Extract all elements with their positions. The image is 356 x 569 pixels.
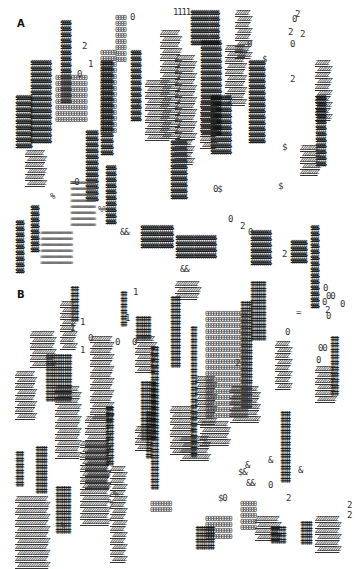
panel-b-character-map: ‡‡‡‡ ‡‡‡‡ ‡‡‡‡ ‡‡‡‡ ‡‡‡‡ ‡‡‡‡ZZZZZZ ZZZZ…	[0, 276, 356, 548]
glyph-region-zero: 000000 000000 000000 000000 000000	[240, 501, 256, 531]
glyph-single: 2	[347, 501, 351, 510]
glyph-region-dollar: $$$$ $$$$ $$$$ $$$$ $$$$ $$$$ $$$$ $$$$	[30, 205, 38, 253]
glyph-single: 0$	[213, 185, 221, 194]
glyph-single: %%	[98, 205, 106, 214]
glyph-single: &&	[246, 479, 254, 488]
glyph-single: 1	[88, 60, 92, 69]
glyph-single: 0	[228, 215, 232, 224]
panel-b: B ‡‡‡‡ ‡‡‡‡ ‡‡‡‡ ‡‡‡‡ ‡‡‡‡ ‡‡‡‡ZZZZZZ ZZ…	[0, 276, 356, 548]
glyph-single: 00	[318, 344, 326, 353]
glyph-region-hatch: ZZZZZZZZ ZZZZZZZZ ZZZZZZZZ ZZZZZZZZ ZZZZ…	[15, 371, 35, 419]
glyph-single: 1	[80, 346, 84, 355]
glyph-single: 2	[240, 222, 244, 231]
glyph-single: 1111	[173, 8, 190, 17]
glyph-single: %	[60, 521, 64, 530]
glyph-single: 2	[290, 75, 294, 84]
glyph-single: %	[50, 192, 54, 201]
glyph-single: 2	[300, 30, 304, 39]
glyph-single: $0	[218, 494, 226, 503]
glyph-single: 0	[88, 334, 92, 343]
glyph-region-dash: ================== ================== ==…	[40, 230, 71, 266]
glyph-region-dagger: ‡‡‡‡‡ ‡‡‡‡‡ ‡‡‡‡‡ ‡‡‡‡‡ ‡‡‡‡‡ ‡‡‡‡‡ ‡‡‡‡…	[170, 296, 179, 368]
glyph-single: $&	[238, 468, 246, 477]
glyph-single: &	[268, 456, 272, 465]
glyph-region-dagger: ‡‡‡‡‡‡‡‡ ‡‡‡‡‡‡‡‡ ‡‡‡‡‡‡‡‡	[270, 526, 285, 544]
glyph-single: 2	[282, 250, 286, 259]
glyph-single: 0	[285, 328, 289, 337]
glyph-single: 0	[248, 228, 252, 237]
glyph-region-hatch: ZZZZZZZZ ZZZZZZZZ ZZZZZZZZ ZZZZZZZZ ZZZZ…	[175, 55, 195, 139]
glyph-region-dagger: ‡‡‡‡‡‡ ‡‡‡‡‡‡ ‡‡‡‡‡‡ ‡‡‡‡‡‡ ‡‡‡‡‡‡ ‡‡‡‡‡…	[35, 446, 46, 494]
glyph-region-hatch: ZZZZZZ ZZZZZZ ZZZZZZ ZZZZZZ ZZZZZZ ZZZZZ…	[200, 100, 216, 148]
glyph-region-hatch: ZZZZZZ ZZZZZZ ZZZZZZ ZZZZZZ ZZZZZZ ZZZZZ…	[275, 341, 291, 389]
glyph-region-hatch: ZZZZZZZZZZZZ ZZZZZZZZZZZZ ZZZZZZZZZZZZ Z…	[80, 441, 109, 525]
glyph-single: 1	[80, 318, 84, 327]
glyph-single: $	[278, 182, 282, 191]
glyph-single: 0	[290, 40, 294, 49]
glyph-region-dollar: $$$$$$$$ $$$$$$$$ $$$$$$$$ $$$$$$$$ $$$$…	[248, 60, 264, 144]
glyph-single: 0	[292, 15, 296, 24]
glyph-single: %	[113, 490, 117, 499]
glyph-region-dollar: $$$$$$$$$$$$$$$$$$$$ $$$$$$$$$$$$$$$$$$$…	[175, 235, 215, 259]
glyph-single: 0	[115, 338, 119, 347]
glyph-region-hatch: ZZZZZZ ZZZZZZ ZZZZZZ ZZZZZZ ZZZZZZ ZZZZZ…	[110, 466, 126, 562]
glyph-region-hatch: ZZZZZZZZ ZZZZZZZZ ZZZZZZZZ ZZZZZZZZ ZZZZ…	[25, 150, 45, 186]
glyph-single: =	[296, 308, 300, 317]
glyph-single: 0	[316, 356, 320, 365]
glyph-region-dollar: $$$$$$ $$$$$$ $$$$$$ $$$$$$ $$$$$$ $$$$$…	[100, 60, 112, 156]
glyph-region-hatch: ZZZZZZZZZZZZ ZZZZZZZZZZZZ ZZZZZZZZZZZZ Z…	[180, 436, 209, 460]
glyph-region-dollar: $$$$$$$$$$ $$$$$$$$$$ $$$$$$$$$$ $$$$$$$…	[30, 60, 50, 144]
glyph-region-dagger: ‡‡‡‡ ‡‡‡‡ ‡‡‡‡ ‡‡‡‡ ‡‡‡‡ ‡‡‡‡	[15, 451, 22, 487]
glyph-region-dollar: $$$$$ $$$$$ $$$$$ $$$$$ $$$$$ $$$$$ $$$$…	[105, 165, 115, 225]
glyph-single: $	[282, 143, 286, 152]
glyph-single: 0	[77, 70, 81, 79]
glyph-region-dollar: $$$$$ $$$$$ $$$$$ $$$$$ $$$$$ $$$$$ $$$$…	[130, 50, 140, 122]
glyph-single: 1	[125, 314, 129, 323]
glyph-region-hatch: ZZZZZZZZ ZZZZZZZZ ZZZZZZZZ ZZZZZZZZ ZZZZ…	[195, 376, 215, 424]
glyph-single: %	[108, 498, 112, 507]
glyph-region-dagger: ‡‡‡‡‡‡‡‡ ‡‡‡‡‡‡‡‡ ‡‡‡‡‡‡‡‡ ‡‡‡‡‡‡‡‡ ‡‡‡‡…	[250, 281, 265, 341]
glyph-region-dash: ============== ============== ==========…	[70, 180, 94, 228]
glyph-region-hatch: ZZZZZZZZ ZZZZZZZZ ZZZZZZZZ ZZZZZZZZ ZZZZ…	[315, 366, 335, 402]
glyph-region-dollar: $$$$$$$$$$$$$$$$ $$$$$$$$$$$$$$$$ $$$$$$…	[140, 225, 172, 249]
glyph-region-zero: 0000 0000 0000 0000 0000 0000 0000 0000	[115, 15, 125, 63]
glyph-region-zero: 000000000000 000000000000 000000000000 0…	[55, 75, 86, 123]
glyph-region-dollar: $$$$$$$$$$ $$$$$$$$$$ $$$$$$$$$$ $$$$$$$…	[250, 230, 270, 266]
glyph-single: 0	[326, 312, 330, 321]
glyph-region-hatch: ZZZZZZZ ZZZZZZZ ZZZZZZZ ZZZZZZZ	[175, 140, 193, 164]
glyph-single: =0	[70, 178, 78, 187]
glyph-region-dollar: $$$$$$$$ $$$$$$$$ $$$$$$$$ $$$$$$$$ $$$$…	[15, 95, 31, 149]
glyph-single: 0	[340, 300, 344, 309]
glyph-single: 2	[347, 511, 351, 520]
glyph-single: 2	[286, 494, 290, 503]
glyph-single: 0	[130, 13, 134, 22]
glyph-single: 2	[82, 42, 86, 51]
glyph-single: 2	[235, 359, 239, 368]
glyph-single: 2	[135, 100, 139, 109]
panel-a: A $$$$$ $$$$$ $$$$$ $$$$$ $$$$$ $$$$$ $$…	[0, 0, 356, 272]
glyph-single: &	[298, 466, 302, 475]
glyph-region-dagger: ‡‡‡ ‡‡‡ ‡‡‡ ‡‡‡ ‡‡‡ ‡‡‡ ‡‡‡ ‡‡‡	[145, 411, 150, 459]
glyph-region-dollar: $$$$ $$$$ $$$$ $$$$ $$$$ $$$$ $$$$ $$$$ …	[15, 220, 23, 274]
glyph-single: 1	[70, 324, 74, 333]
glyph-single: 00	[326, 292, 334, 301]
glyph-single: 0	[247, 40, 251, 49]
glyph-single: 1	[133, 288, 137, 297]
glyph-region-dollar: $$$$$$$$ $$$$$$$$ $$$$$$$$ $$$$$$$$	[290, 240, 306, 264]
glyph-region-dagger: ‡‡‡‡‡‡ ‡‡‡‡‡‡ ‡‡‡‡‡‡ ‡‡‡‡‡‡	[300, 521, 311, 545]
glyph-single: &&	[180, 265, 188, 274]
glyph-region-hatch: ZZZZZZZZZZZZ ZZZZZZZZZZZZ ZZZZZZZZZZZZ Z…	[230, 386, 259, 422]
glyph-region-hatch: ZZZZZZZZZZZZZZ ZZZZZZZZZZZZZZ ZZZZZZZZZZ…	[15, 496, 48, 568]
glyph-region-hatch: ZZZZZZZZZZ ZZZZZZZZZZ ZZZZZZZZZZ ZZZZZZZ…	[315, 516, 339, 552]
glyph-single: 2	[288, 28, 292, 37]
glyph-region-dagger: ‡‡‡‡‡‡‡‡‡‡ ‡‡‡‡‡‡‡‡‡‡ ‡‡‡‡‡‡‡‡‡‡ ‡‡‡‡‡‡‡…	[195, 526, 213, 550]
glyph-region-zero: 00000000 00000000	[150, 501, 171, 513]
glyph-single: 0	[268, 481, 272, 490]
glyph-single: 2	[150, 426, 154, 435]
glyph-single: $	[262, 55, 266, 64]
glyph-region-hatch: ZZZZZZZZ ZZZZZZZZ ZZZZZZZZ ZZZZZZZZ ZZZZ…	[300, 145, 320, 175]
glyph-region-dagger: ‡‡‡‡‡ ‡‡‡‡‡ ‡‡‡‡‡ ‡‡‡‡‡ ‡‡‡‡‡ ‡‡‡‡‡ ‡‡‡‡…	[280, 411, 289, 483]
panel-a-character-map: $$$$$ $$$$$ $$$$$ $$$$$ $$$$$ $$$$$ $$$$…	[0, 0, 356, 272]
glyph-region-hatch: ZZZZZZZZZZ ZZZZZZZZZZ ZZZZZZZZZZ ZZZZZZZ…	[55, 386, 79, 458]
glyph-single: 0	[132, 338, 136, 347]
